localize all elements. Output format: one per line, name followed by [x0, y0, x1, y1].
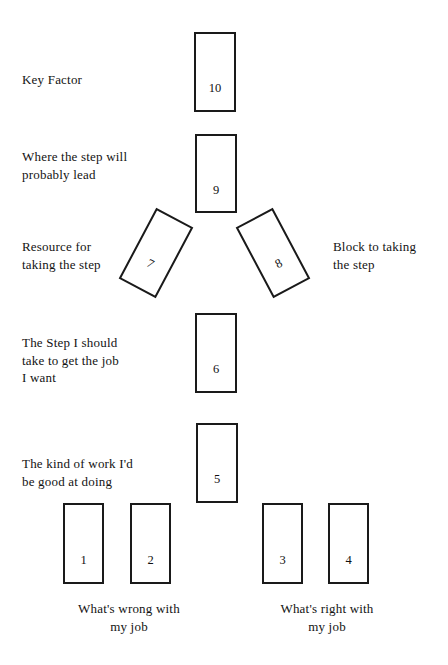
- card-10-number: 10: [196, 82, 234, 95]
- label-kind-of-work: The kind of work I'd be good at doing: [22, 455, 133, 490]
- card-3-number: 3: [264, 554, 301, 567]
- label-the-step: The Step I should take to get the job I …: [22, 334, 119, 387]
- card-2-number: 2: [132, 554, 169, 567]
- label-key-factor: Key Factor: [22, 71, 82, 89]
- card-6[interactable]: 6: [195, 313, 237, 393]
- caption-whats-wrong: What's wrong with my job: [49, 600, 209, 636]
- caption-whats-right: What's right with my job: [247, 600, 407, 636]
- card-3[interactable]: 3: [262, 503, 303, 584]
- card-5[interactable]: 5: [196, 423, 238, 503]
- card-9-number: 9: [197, 184, 235, 197]
- card-8[interactable]: 8: [236, 208, 311, 298]
- card-9[interactable]: 9: [195, 134, 237, 213]
- card-5-number: 5: [198, 473, 236, 486]
- label-where-step-leads: Where the step will probably lead: [22, 148, 127, 183]
- label-resource: Resource for taking the step: [22, 238, 101, 273]
- card-6-number: 6: [197, 363, 235, 376]
- card-7[interactable]: 7: [119, 208, 194, 298]
- card-4-number: 4: [330, 554, 367, 567]
- label-block: Block to taking the step: [333, 238, 416, 273]
- card-4[interactable]: 4: [328, 503, 369, 584]
- card-spread-diagram: 12345678910 Key FactorWhere the step wil…: [0, 0, 448, 665]
- card-2[interactable]: 2: [130, 503, 171, 584]
- card-10[interactable]: 10: [194, 32, 236, 112]
- card-1-number: 1: [65, 554, 102, 567]
- card-7-number: 7: [131, 249, 170, 278]
- card-8-number: 8: [259, 249, 298, 278]
- card-1[interactable]: 1: [63, 503, 104, 584]
